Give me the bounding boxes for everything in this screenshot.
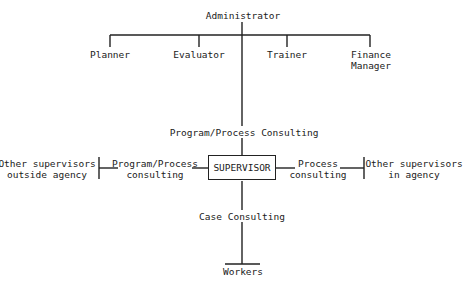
edge-label-left: Program/Process consulting — [112, 158, 198, 180]
edge-label-up: Program/Process Consulting — [170, 127, 319, 138]
evaluator-node: Evaluator — [173, 49, 224, 60]
connector-lines — [0, 0, 463, 284]
planner-node: Planner — [90, 49, 130, 60]
edge-label-down: Case Consulting — [199, 211, 285, 222]
trainer-node: Trainer — [267, 49, 307, 60]
workers-node: Workers — [223, 266, 263, 277]
other-supervisors-outside-node: Other supervisors outside agency — [0, 158, 96, 180]
administrator-node: Administrator — [206, 10, 280, 21]
edge-label-right: Process consulting — [289, 158, 346, 180]
other-supervisors-in-agency-node: Other supervisors in agency — [365, 158, 462, 180]
supervisor-node: SUPERVISOR — [208, 155, 276, 180]
finance-manager-node: Finance Manager — [351, 49, 391, 71]
